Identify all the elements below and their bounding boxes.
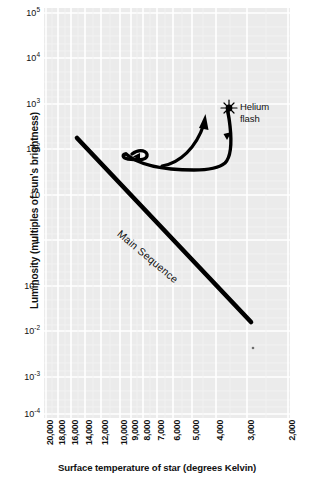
x-tick-2000: 2,000 [288, 420, 297, 441]
x-axis-title: Surface temperature of star (degrees Kel… [0, 462, 314, 473]
x-tick-3000: 3,000 [247, 420, 256, 441]
data-curves [44, 8, 290, 418]
y-tick-1em3: 10-3 [24, 373, 40, 382]
ascending-branch-arrow-shaft [162, 124, 204, 166]
helium-flash-starburst-icon [221, 100, 237, 116]
x-tick-5000: 5,000 [192, 420, 201, 441]
y-tick-1e5: 105 [26, 9, 40, 18]
hr-diagram-figure: 105 104 103 102 10 1 10-1 10-2 10-3 10-4… [0, 0, 314, 484]
x-tick-12000: 12,000 [101, 420, 110, 445]
x-tick-4000: 4,000 [216, 420, 225, 441]
y-tick-1e4: 104 [26, 54, 40, 63]
x-tick-9000: 9,000 [131, 420, 140, 441]
x-tick-7000: 7,000 [157, 420, 166, 441]
x-tick-18000: 18,000 [58, 420, 67, 445]
helium-flash-annotation: Helium flash [240, 101, 269, 124]
x-axis-tick-labels: 20,000 18,000 16,000 14,000 12,000 10,00… [44, 420, 290, 462]
ascending-branch-arrowhead [199, 114, 209, 130]
x-tick-10000: 10,000 [120, 420, 129, 445]
helium-flash-line-2: flash [240, 113, 269, 125]
x-tick-6000: 6,000 [173, 420, 182, 441]
helium-flash-line-1: Helium [240, 101, 269, 113]
white-dwarf-dot [252, 347, 255, 350]
x-tick-20000: 20,000 [46, 420, 55, 445]
plot-area: Helium flash Main Sequence [44, 8, 290, 418]
x-tick-16000: 16,000 [71, 420, 80, 445]
x-tick-14000: 14,000 [85, 420, 94, 445]
x-tick-8000: 8,000 [143, 420, 152, 441]
y-axis-title: Luminosity (multiples of sun's brightnes… [29, 81, 40, 341]
y-tick-1em4: 10-4 [24, 410, 40, 419]
